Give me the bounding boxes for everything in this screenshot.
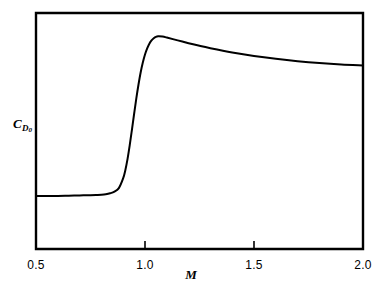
x-axis-label: M [0, 268, 382, 281]
axes-frame [36, 13, 363, 249]
x-tick-label-1: 1.0 [125, 259, 165, 271]
figure-canvas: CD0 M 0.51.01.52.0 [0, 0, 382, 297]
data-curve-cd0 [36, 36, 363, 196]
y-axis-label-sub: D [22, 123, 29, 133]
x-tick-label-3: 2.0 [343, 259, 382, 271]
y-axis-label-main: C [13, 116, 22, 131]
x-axis-label-text: M [185, 267, 197, 282]
series-group [36, 36, 363, 196]
chart-plot-area [0, 0, 382, 297]
x-tick-label-2: 1.5 [234, 259, 274, 271]
x-tick-label-0: 0.5 [16, 259, 56, 271]
y-axis-label-subsub: 0 [29, 126, 33, 134]
plot-frame-rect [36, 13, 363, 249]
y-axis-label: CD0 [13, 117, 32, 134]
